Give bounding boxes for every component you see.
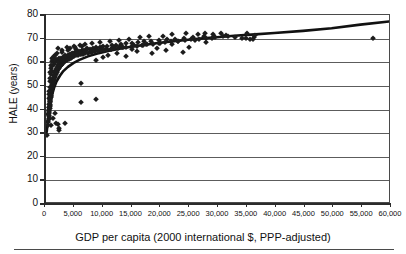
y-axis-tick-labels: 01020304050607080 [0, 0, 38, 254]
y-tick-mark [40, 203, 44, 205]
x-tick-label: 30,000 [206, 209, 229, 218]
trendline [45, 15, 389, 202]
x-tick-label: 40,000 [263, 209, 286, 218]
x-tick-mark [102, 203, 103, 207]
x-tick-mark [44, 203, 45, 207]
x-tick-mark [188, 203, 189, 207]
y-tick-mark [40, 38, 44, 40]
x-tick-mark [73, 203, 74, 207]
y-tick-mark [40, 156, 44, 158]
plot-area [44, 14, 390, 203]
y-tick-mark [40, 61, 44, 63]
y-axis-line [44, 14, 46, 204]
x-tick-mark [246, 203, 247, 207]
y-tick-mark [40, 85, 44, 87]
x-tick-mark [217, 203, 218, 207]
chart-figure: 01020304050607080 HALE (years) 05,00010,… [0, 0, 406, 254]
y-tick-mark [40, 132, 44, 134]
x-tick-label: 5,000 [63, 209, 82, 218]
x-tick-label: 20,000 [148, 209, 171, 218]
bottom-rule [14, 249, 394, 250]
x-tick-mark [159, 203, 160, 207]
x-tick-mark [390, 203, 391, 207]
x-tick-label: 35,000 [234, 209, 257, 218]
y-tick-mark [40, 109, 44, 111]
x-tick-mark [275, 203, 276, 207]
x-axis-title: GDP per capita (2000 international $, PP… [0, 231, 406, 243]
x-tick-mark [361, 203, 362, 207]
x-tick-label: 55,000 [350, 209, 373, 218]
x-tick-label: 10,000 [90, 209, 113, 218]
x-tick-mark [304, 203, 305, 207]
x-tick-label: 50,000 [321, 209, 344, 218]
x-tick-mark [131, 203, 132, 207]
x-tick-label: 0 [42, 209, 46, 218]
y-axis-title: HALE (years) [8, 48, 19, 140]
x-tick-label: 25,000 [177, 209, 200, 218]
y-tick-label: 10 [4, 174, 38, 184]
y-tick-label: 0 [4, 198, 38, 208]
y-tick-mark [40, 179, 44, 181]
y-tick-label: 20 [4, 151, 38, 161]
y-tick-label: 70 [4, 33, 38, 43]
x-tick-mark [332, 203, 333, 207]
y-tick-mark [40, 14, 44, 16]
x-tick-label: 15,000 [119, 209, 142, 218]
x-tick-label: 45,000 [292, 209, 315, 218]
y-tick-label: 80 [4, 9, 38, 19]
x-tick-label: 60,000 [379, 209, 402, 218]
